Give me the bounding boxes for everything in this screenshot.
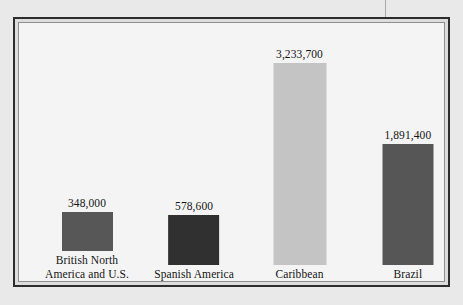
bar-value-label: 348,000 <box>68 197 106 210</box>
bar-category-label: Brazil <box>394 268 423 282</box>
bar-value-label: 1,891,400 <box>384 129 431 142</box>
bar-category-label: British North America and U.S. <box>45 254 129 281</box>
plot-area: 348,000 British North America and U.S. 5… <box>19 23 444 281</box>
bar-group-spanish-america: 578,600 Spanish America <box>154 200 234 282</box>
bar[interactable] <box>62 212 113 251</box>
bar[interactable] <box>382 144 433 265</box>
bar-group-brazil: 1,891,400 Brazil <box>382 129 433 282</box>
bar[interactable] <box>273 63 326 265</box>
bar-category-label: Spanish America <box>154 268 234 282</box>
bar-value-label: 3,233,700 <box>276 48 323 61</box>
plot-surface: 348,000 British North America and U.S. 5… <box>18 22 445 282</box>
bar[interactable] <box>169 215 220 265</box>
bar-group-caribbean: 3,233,700 Caribbean <box>273 48 326 282</box>
chart-frame: 348,000 British North America and U.S. 5… <box>13 17 450 287</box>
bar-value-label: 578,600 <box>175 200 213 213</box>
bar-group-british-north-america: 348,000 British North America and U.S. <box>45 197 129 281</box>
bar-category-label: Caribbean <box>275 268 323 282</box>
